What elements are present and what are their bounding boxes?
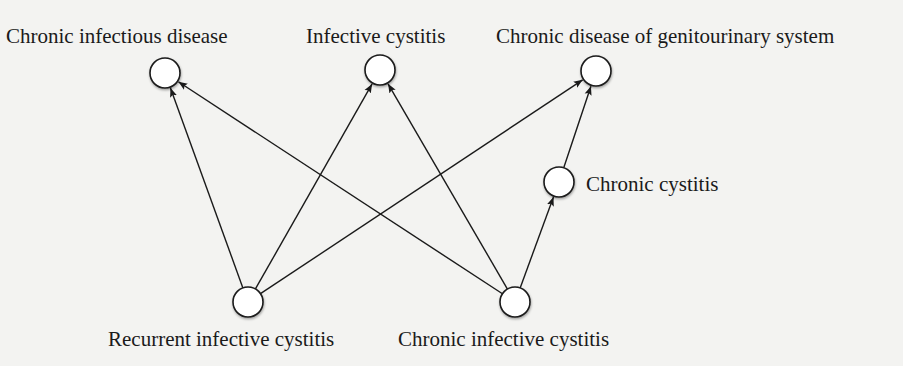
node-infective-cystitis <box>365 55 395 85</box>
nodes-layer <box>150 55 611 317</box>
edge-chronic-infective-cystitis-to-chronic-infectious-disease <box>178 82 502 294</box>
graph-canvas <box>0 0 903 366</box>
node-label-chronic-disease-gu: Chronic disease of genitourinary system <box>496 26 834 47</box>
edge-chronic-infective-cystitis-to-chronic-cystitis <box>520 197 553 288</box>
edge-recurrent-infective-cystitis-to-chronic-infectious-disease <box>170 88 242 288</box>
node-label-recurrent-infective-cystitis: Recurrent infective cystitis <box>108 329 334 350</box>
node-chronic-infectious-disease <box>150 58 180 88</box>
node-chronic-infective-cystitis <box>500 287 530 317</box>
edge-chronic-cystitis-to-chronic-disease-gu <box>564 86 591 168</box>
node-chronic-cystitis <box>544 167 574 197</box>
node-label-chronic-infectious-disease: Chronic infectious disease <box>6 26 228 47</box>
node-recurrent-infective-cystitis <box>233 287 263 317</box>
node-label-chronic-cystitis: Chronic cystitis <box>586 174 718 195</box>
node-label-chronic-infective-cystitis: Chronic infective cystitis <box>398 329 609 350</box>
node-chronic-disease-gu <box>581 56 611 86</box>
edges-layer <box>170 80 590 294</box>
node-label-infective-cystitis: Infective cystitis <box>306 26 445 47</box>
edge-recurrent-infective-cystitis-to-chronic-disease-gu <box>260 80 582 294</box>
